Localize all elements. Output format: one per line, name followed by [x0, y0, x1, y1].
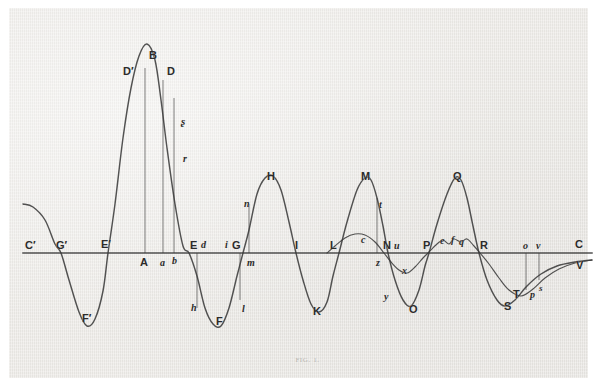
point-label-D-prime: D′ [123, 66, 134, 77]
point-label-u: u [394, 241, 400, 251]
point-label-R: R [480, 240, 488, 251]
point-label-C-prime: C′ [25, 240, 36, 251]
point-label-t: t [379, 200, 382, 210]
point-label-H: H [267, 171, 275, 182]
point-label-G-prime: G′ [56, 240, 67, 251]
point-label-N: N [383, 240, 391, 251]
point-label-s: s [539, 284, 543, 293]
point-label-b-axis: b [172, 256, 177, 266]
point-label-E-prime: E′ [101, 239, 111, 250]
point-label-c: c [361, 235, 365, 245]
point-label-l: l [242, 304, 245, 314]
point-label-A: A [140, 257, 148, 268]
wave-diagram-svg [9, 8, 597, 386]
point-label-f: f [451, 235, 454, 245]
point-label-P: P [423, 240, 430, 251]
engraving-plate: C′G′E′F′D′BDʂrAabEdhFiGlmnHIKLcMtNuzxyOP… [9, 8, 588, 378]
point-label-m: m [247, 258, 255, 268]
point-label-q: q [459, 237, 464, 247]
point-label-d: d [201, 240, 206, 250]
point-label-p: p [530, 290, 535, 300]
point-label-o: o [523, 241, 528, 251]
point-label-z: z [376, 258, 380, 268]
figure-page: C′G′E′F′D′BDʂrAabEdhFiGlmnHIKLcMtNuzxyOP… [0, 0, 597, 386]
point-label-F-prime: F′ [82, 313, 91, 324]
point-label-y: y [384, 292, 388, 302]
point-label-E: E [190, 240, 197, 251]
point-label-x: x [402, 266, 407, 276]
point-label-F: F [216, 316, 223, 327]
point-label-e: e [440, 236, 444, 246]
point-label-C: C [575, 239, 583, 250]
point-label-M: M [361, 171, 370, 182]
point-label-a: a [160, 258, 165, 268]
point-label-O: O [409, 304, 418, 315]
point-label-r: r [183, 154, 187, 164]
figure-caption: FIG. 1. [9, 356, 597, 364]
point-label-h: h [191, 303, 197, 313]
point-label-g-script: ʂ [181, 116, 185, 127]
point-label-D: D [167, 66, 175, 77]
point-label-K: K [313, 306, 321, 317]
point-label-S: S [504, 301, 511, 312]
point-label-i: i [225, 240, 228, 250]
curve-main-resonance-curve [23, 44, 592, 327]
point-label-n: n [244, 199, 250, 209]
point-label-I: I [295, 240, 298, 251]
point-label-T: T [513, 289, 520, 300]
point-label-v: v [536, 241, 540, 251]
point-label-V: V [576, 260, 583, 271]
point-label-B: B [149, 50, 157, 61]
point-label-L: L [330, 240, 337, 251]
point-label-Q: Q [453, 171, 462, 182]
point-label-G: G [232, 240, 241, 251]
